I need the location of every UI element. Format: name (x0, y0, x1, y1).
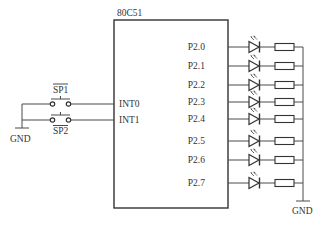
led-resistor-p2-2 (228, 74, 303, 91)
output-pin-labels: P2.0 P2.1 P2.2 P2.3 P2.4 P2.5 P2.6 P2.7 (188, 42, 205, 188)
led-resistor-p2-6 (228, 149, 303, 166)
pin-label-p2-7: P2.7 (188, 178, 205, 188)
pin-label-p2-3: P2.3 (188, 97, 205, 107)
switch-contact-icon (50, 118, 54, 122)
led-resistor-p2-1 (228, 55, 303, 72)
input-ground-label: GND (10, 134, 31, 144)
pin-label-p2-2: P2.2 (188, 80, 205, 90)
led-resistor-p2-3 (228, 91, 303, 108)
led-resistor-p2-7 (228, 172, 303, 189)
pin-label-p2-6: P2.6 (188, 155, 205, 165)
switch-label-sp1: SP1 (53, 85, 69, 95)
chip-80c51 (114, 20, 228, 208)
pin-label-int0: INT0 (119, 99, 140, 109)
led-branches (228, 36, 303, 189)
pin-label-p2-1: P2.1 (188, 61, 205, 71)
switch-sp2: SP2 (22, 112, 114, 136)
circuit-diagram: 80C51 GND SP1 INT0 SP2 (0, 0, 323, 227)
pin-label-p2-5: P2.5 (188, 136, 205, 146)
led-resistor-p2-5 (228, 130, 303, 147)
pin-label-int1: INT1 (119, 115, 140, 125)
pin-label-p2-0: P2.0 (188, 42, 205, 52)
input-circuit: GND SP1 INT0 SP2 INT1 (10, 84, 140, 144)
switch-label-sp2: SP2 (53, 126, 69, 136)
switch-contact-icon (50, 102, 54, 106)
led-resistor-p2-4 (228, 108, 303, 125)
output-ground-label: GND (292, 206, 313, 216)
led-resistor-p2-0 (228, 36, 303, 53)
chip-label: 80C51 (117, 8, 143, 18)
pin-label-p2-4: P2.4 (188, 114, 205, 124)
switch-contact-icon (66, 118, 70, 122)
switch-contact-icon (66, 102, 70, 106)
switch-sp1: SP1 (22, 84, 114, 106)
